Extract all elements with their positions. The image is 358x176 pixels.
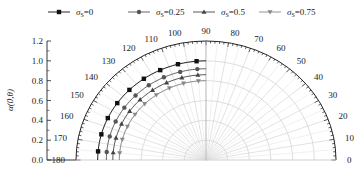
y-tick-label: 0.4 xyxy=(32,115,44,125)
angle-tick xyxy=(324,115,326,116)
angle-tick xyxy=(91,104,93,105)
angle-tick xyxy=(291,72,293,74)
angle-tick xyxy=(93,101,97,103)
angle-tick xyxy=(330,131,333,132)
angle-tick xyxy=(81,127,83,128)
angle-tick xyxy=(245,47,246,49)
radial-axis: 0.00.20.40.60.81.01.2 xyxy=(32,36,76,165)
square-marker xyxy=(142,77,146,81)
triangle-marker xyxy=(119,121,124,125)
legend-label: σS=0 xyxy=(76,7,94,18)
angle-tick xyxy=(262,53,263,55)
angle-tick xyxy=(312,93,314,94)
angle-label: 160 xyxy=(60,111,74,121)
angle-label: 130 xyxy=(102,56,116,66)
circle-marker xyxy=(122,105,126,109)
legend-label: σS=0.25 xyxy=(156,7,185,18)
angle-tick xyxy=(318,104,320,105)
grid-radial-line xyxy=(206,110,324,160)
angle-tick xyxy=(328,127,330,128)
angle-tick xyxy=(119,72,121,74)
angle-tick xyxy=(153,51,154,53)
legend-item: σS=0 xyxy=(48,7,94,18)
angle-tick xyxy=(126,66,128,68)
y-tick-label: 0.2 xyxy=(32,135,43,145)
angle-tick xyxy=(157,50,158,52)
angle-tick xyxy=(322,112,324,113)
angle-tick xyxy=(109,80,111,82)
angle-tick xyxy=(183,43,184,47)
angle-tick xyxy=(327,123,329,124)
square-marker xyxy=(96,149,100,153)
square-marker xyxy=(158,68,162,72)
angle-tick xyxy=(162,48,164,52)
angle-label: 110 xyxy=(145,34,159,44)
square-marker xyxy=(127,88,131,92)
angle-tick xyxy=(133,61,134,63)
angle-tick xyxy=(314,97,316,98)
legend-label: σS=0.75 xyxy=(287,7,316,18)
polar-chart: 0.00.20.40.60.81.01.2 010203040506070809… xyxy=(0,0,358,176)
angle-tick xyxy=(137,59,138,61)
angle-tick xyxy=(306,87,308,88)
angle-tick xyxy=(130,64,132,66)
y-tick-label: 0.6 xyxy=(32,96,44,106)
angle-tick xyxy=(84,119,88,120)
angle-tick xyxy=(82,123,84,124)
circle-marker xyxy=(113,119,117,123)
angle-label: 180 xyxy=(51,155,65,165)
triangle-down-marker xyxy=(125,125,130,129)
angle-label: 80 xyxy=(230,28,240,38)
angle-label: 0 xyxy=(347,155,352,165)
circle-marker xyxy=(195,67,199,71)
angle-tick xyxy=(284,66,286,68)
angle-tick xyxy=(87,112,89,113)
circle-marker xyxy=(105,150,109,154)
y-axis-label: α(0,θ) xyxy=(5,89,15,111)
y-tick-label: 1.0 xyxy=(32,56,44,66)
angle-label: 140 xyxy=(84,72,98,82)
angle-tick xyxy=(266,55,267,57)
angle-tick xyxy=(141,57,143,61)
circle-marker xyxy=(178,70,182,74)
legend-item: σS=0.5 xyxy=(193,7,246,18)
square-marker xyxy=(115,101,119,105)
angle-tick xyxy=(149,53,150,55)
legend-item: σS=0.25 xyxy=(128,7,185,18)
angle-tick xyxy=(104,87,106,88)
angle-tick xyxy=(258,51,259,53)
grid-radial-line xyxy=(206,52,261,160)
angle-label: 30 xyxy=(328,90,338,100)
angle-label: 70 xyxy=(254,34,264,44)
square-marker xyxy=(99,132,103,136)
angle-tick xyxy=(85,115,87,116)
angle-tick xyxy=(315,101,319,103)
y-tick-label: 0.0 xyxy=(32,155,44,165)
circle-marker xyxy=(108,134,112,138)
angle-tick xyxy=(96,97,98,98)
angle-tick xyxy=(101,90,103,91)
angle-tick xyxy=(294,74,296,76)
angle-tick xyxy=(116,74,118,76)
angle-tick xyxy=(89,108,91,109)
angle-tick xyxy=(321,108,323,109)
angle-tick xyxy=(269,57,271,61)
y-tick-label: 1.2 xyxy=(32,36,43,46)
square-marker xyxy=(194,59,198,63)
legend-item: σS=0.75 xyxy=(259,7,316,18)
angle-tick xyxy=(274,59,275,61)
angle-label: 40 xyxy=(314,72,324,82)
angle-tick xyxy=(287,69,290,72)
circle-marker xyxy=(162,75,166,79)
legend: σS=0σS=0.25σS=0.5σS=0.75 xyxy=(48,7,316,18)
angle-tick xyxy=(249,48,251,52)
angle-label: 10 xyxy=(345,133,355,143)
angle-tick xyxy=(145,55,146,57)
angle-label: 50 xyxy=(297,56,307,66)
angle-label: 120 xyxy=(122,43,136,53)
circle-marker xyxy=(147,83,151,87)
angle-tick xyxy=(78,139,82,140)
square-marker xyxy=(176,62,180,66)
square-marker xyxy=(57,10,61,14)
angle-tick xyxy=(330,139,334,140)
